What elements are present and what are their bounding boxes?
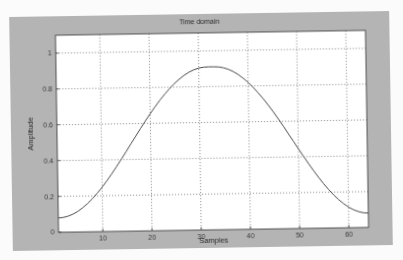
x-tick-label: 50 [296,231,304,238]
x-tick-label: 20 [148,234,156,241]
time-domain-plot: Time domain 102030405060 00.20.40.60.81 … [9,11,393,251]
x-tick-label: 40 [247,232,255,239]
y-tick-label: 0.2 [44,193,54,200]
axes-area [55,30,368,232]
x-tick-label: 60 [345,231,353,238]
y-tick-label: 0 [51,229,55,236]
y-tick-label: 0.6 [43,121,53,128]
y-tick-label: 0.4 [44,157,54,164]
y-tick-label: 0.8 [43,86,53,93]
screenshot-stage: Time domain 102030405060 00.20.40.60.81 … [0,0,403,260]
chart-title: Time domain [179,18,219,26]
y-tick-labels: 00.20.40.60.81 [42,50,55,236]
x-axis-label: Samples [199,236,229,245]
y-tick-label: 1 [48,50,52,57]
x-tick-label: 10 [99,234,107,241]
y-axis-label: Amplitude [26,117,36,150]
figure-window: Time domain 102030405060 00.20.40.60.81 … [9,11,393,251]
